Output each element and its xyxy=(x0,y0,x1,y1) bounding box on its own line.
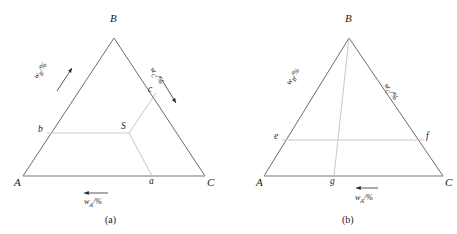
panel-a-point-label-b: b xyxy=(38,125,43,135)
panel-b-point-label-f: f xyxy=(426,132,429,142)
panel-a-point-label-a: a xyxy=(149,177,154,187)
arrow-wC-a xyxy=(162,80,176,103)
panel-b-axis-label-wA: wA/% xyxy=(355,194,373,204)
triangle-outline-b xyxy=(264,38,443,176)
tie-line-S-a xyxy=(129,133,152,176)
panel-b-point-label-e: e xyxy=(274,132,278,142)
panel-a-triangle xyxy=(23,38,205,176)
panel-a-axis-arrows xyxy=(57,68,176,193)
diagram-canvas xyxy=(0,0,457,234)
panel-b-tie-lines xyxy=(282,38,424,176)
panel-a-point-label-S: S xyxy=(121,122,126,132)
panel-a-vertex-label-C: C xyxy=(207,177,214,188)
panel-a-caption: (a) xyxy=(105,214,116,225)
ternary-phase-diagram-figure: A B C b S c a wB/% wC/% wA/% (a) A B C e… xyxy=(0,0,457,234)
panel-b-point-label-g: g xyxy=(330,177,335,187)
arrow-wB-a xyxy=(57,68,72,91)
panel-a-point-label-c: c xyxy=(148,85,152,95)
panel-b-vertex-label-A: A xyxy=(256,177,263,188)
panel-b-vertex-label-B: B xyxy=(345,13,352,24)
panel-b-caption: (b) xyxy=(342,214,354,225)
wA-unit: /% xyxy=(364,193,373,202)
panel-b-vertex-label-C: C xyxy=(445,177,452,188)
panel-a-axis-label-wA: wA/% xyxy=(84,198,102,208)
wA-unit: /% xyxy=(93,197,102,206)
panel-a-vertex-label-A: A xyxy=(14,177,21,188)
triangle-outline-a xyxy=(23,38,205,176)
panel-b-triangle xyxy=(264,38,443,176)
panel-a-tie-lines xyxy=(47,93,156,176)
panel-a-vertex-label-B: B xyxy=(110,13,117,24)
tie-line-S-c xyxy=(129,93,156,133)
